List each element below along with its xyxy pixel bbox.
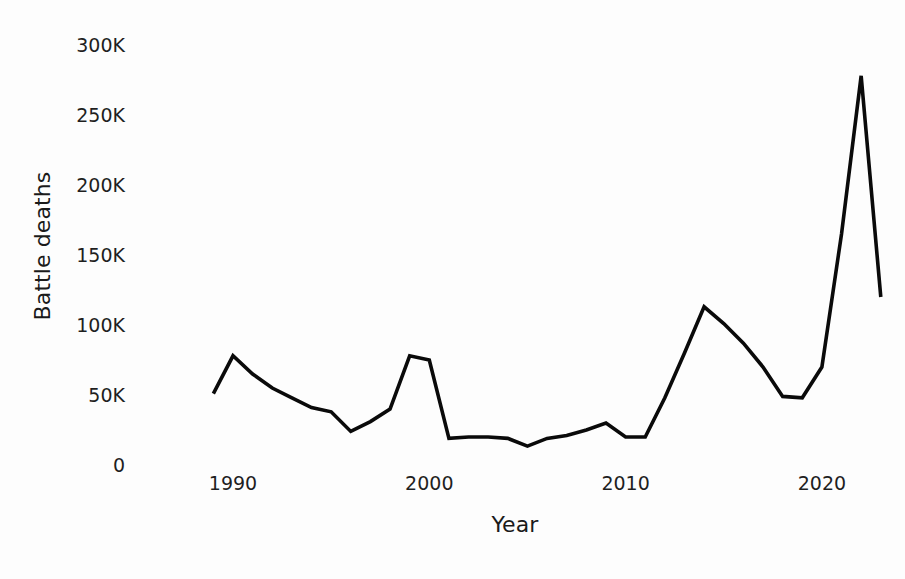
x-tick-label: 1990 bbox=[209, 472, 257, 494]
battle-deaths-line-chart: 300K 250K 200K 150K 100K 50K 0 Battle de… bbox=[0, 0, 905, 579]
x-tick-label: 2000 bbox=[405, 472, 453, 494]
x-tick-label: 2020 bbox=[798, 472, 846, 494]
x-tick-label: 2010 bbox=[601, 472, 649, 494]
series-line-battle-deaths bbox=[213, 76, 880, 446]
x-axis-title: Year bbox=[205, 512, 825, 537]
